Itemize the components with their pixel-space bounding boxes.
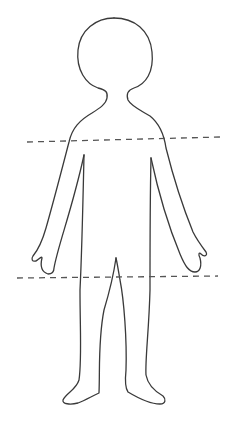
left-leg-outline <box>63 155 116 404</box>
upper-cut-line <box>27 137 220 142</box>
figure-canvas <box>0 0 236 428</box>
right-leg-outline <box>116 158 165 404</box>
body-outline-drawing <box>0 0 236 428</box>
lower-cut-line <box>17 276 218 278</box>
body-outline-left <box>32 18 114 274</box>
body-outline-right <box>114 18 207 272</box>
